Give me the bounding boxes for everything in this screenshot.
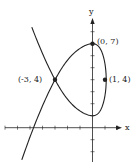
point-label-1-4: (1, 4) [109, 76, 131, 84]
point-label-neg3-4: (-3, 4) [18, 76, 42, 84]
point-marker [103, 78, 107, 82]
parametric-curve-figure: y x (0, 7) (-3, 4) (1, 4) [0, 0, 140, 165]
x-axis-arrow-icon [116, 126, 122, 130]
point-marker [53, 78, 57, 82]
y-axis-arrow-icon [90, 18, 94, 24]
y-axis-label: y [89, 8, 94, 16]
point-label-0-7: (0, 7) [97, 38, 119, 46]
x-axis-label: x [125, 124, 130, 132]
point-marker [90, 42, 94, 46]
